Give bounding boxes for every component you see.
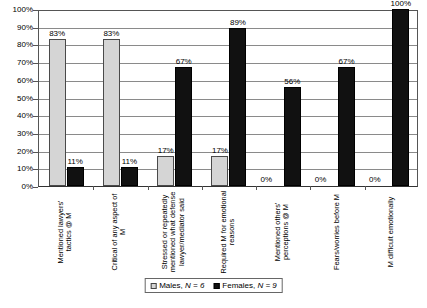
y-axis-tick-mark — [33, 187, 38, 188]
bar-females[interactable] — [284, 87, 301, 186]
x-axis-category-text: Mentioned lawyers' tactics @ M — [57, 190, 74, 274]
bar-males[interactable] — [157, 156, 174, 186]
legend-swatch-females-icon — [213, 283, 219, 289]
bar-females[interactable] — [392, 9, 409, 186]
x-axis-category-text: Required M for emotional reasons — [220, 190, 237, 274]
y-axis-tick-label: 90% — [0, 24, 33, 32]
x-axis-category-label: Fears/worries before M — [309, 190, 363, 276]
bar-group: 83%11% — [39, 11, 93, 186]
y-axis-tick-label: 10% — [0, 165, 33, 173]
y-axis-tick-label: 100% — [0, 6, 33, 14]
y-axis-tick-label: 30% — [0, 130, 33, 138]
bar-value-label: 100% — [387, 0, 415, 8]
bar-value-label: 83% — [97, 30, 125, 38]
x-axis-category-label: Stressed or repeatedly mentioned what de… — [147, 190, 201, 276]
bar-females[interactable] — [121, 167, 138, 186]
bar-value-label: 11% — [61, 158, 89, 166]
plot-area: 83%11%83%11%17%67%17%89%0%56%0%67%0%100% — [38, 10, 418, 187]
bar-value-label: 67% — [170, 58, 198, 66]
bar-group: 0%67% — [310, 11, 364, 186]
bar-group: 0%56% — [256, 11, 310, 186]
bar-group: 17%67% — [148, 11, 202, 186]
y-axis-tick-label: 80% — [0, 41, 33, 49]
bar-males[interactable] — [211, 156, 228, 186]
bar-females[interactable] — [338, 67, 355, 186]
legend-item-males: Males, N = 6 — [150, 281, 204, 290]
x-axis-category-label: Critical of any aspect of M — [92, 190, 146, 276]
bar-females[interactable] — [175, 67, 192, 186]
x-axis-category-label: M difficult emotionally — [364, 190, 418, 276]
bar-females[interactable] — [229, 28, 246, 186]
legend-label-females: Females, N = 9 — [222, 281, 276, 290]
bar-value-label: 83% — [43, 30, 71, 38]
y-axis-tick-label: 20% — [0, 148, 33, 156]
bar-value-label: 56% — [278, 78, 306, 86]
bar-value-label: 0% — [362, 176, 387, 184]
bar-value-label: 89% — [224, 19, 252, 27]
y-axis-tick-label: 0% — [0, 183, 33, 191]
legend-item-females: Females, N = 9 — [213, 281, 276, 290]
bar-females[interactable] — [67, 167, 84, 186]
x-axis-category-text: Critical of any aspect of M — [111, 190, 128, 274]
bar-value-label: 67% — [333, 58, 361, 66]
chart-legend: Males, N = 6 Females, N = 9 — [144, 278, 283, 293]
legend-swatch-males-icon — [150, 283, 156, 289]
x-axis-category-label: Required M for emotional reasons — [201, 190, 255, 276]
x-axis-category-text: Mentioned others' perceptions @ M — [274, 190, 291, 274]
x-axis-category-text: Stressed or repeatedly mentioned what de… — [161, 190, 186, 274]
bar-chart: 100%90%80%70%60%50%40%30%20%10%0% 83%11%… — [0, 0, 427, 308]
x-axis-category-label: Mentioned lawyers' tactics @ M — [38, 190, 92, 276]
y-axis-tick-label: 70% — [0, 59, 33, 67]
y-axis-tick-label: 40% — [0, 112, 33, 120]
y-axis-tick-label: 60% — [0, 77, 33, 85]
x-axis-category-label: Mentioned others' perceptions @ M — [255, 190, 309, 276]
bar-group: 17%89% — [202, 11, 256, 186]
legend-label-males: Males, N = 6 — [159, 281, 204, 290]
bar-value-label: 11% — [115, 158, 143, 166]
bar-group: 0%100% — [365, 11, 419, 186]
x-axis-category-text: M difficult emotionally — [387, 190, 395, 274]
bar-group: 83%11% — [93, 11, 147, 186]
x-axis-labels: Mentioned lawyers' tactics @ MCritical o… — [38, 190, 418, 276]
x-axis-category-text: Fears/worries before M — [332, 190, 340, 274]
y-axis-tick-label: 50% — [0, 95, 33, 103]
bar-value-label: 0% — [308, 176, 333, 184]
y-axis: 100%90%80%70%60%50%40%30%20%10%0% — [0, 0, 38, 308]
bar-value-label: 0% — [254, 176, 279, 184]
